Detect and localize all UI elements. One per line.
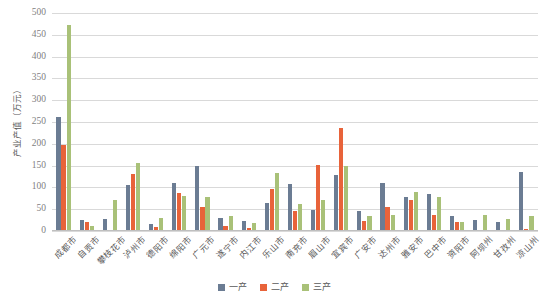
bar (67, 25, 71, 231)
bar (293, 211, 297, 231)
bar-group (307, 13, 330, 231)
x-axis-tick: 南充市 (283, 233, 306, 281)
x-axis-tick: 乐山市 (260, 233, 283, 281)
bar (334, 175, 338, 231)
bar (385, 207, 389, 231)
x-axis-tick: 凉山州 (515, 233, 538, 281)
legend-label: 三产 (313, 283, 331, 292)
legend-swatch-icon (302, 284, 309, 291)
gridline (52, 231, 538, 232)
bar (265, 203, 269, 231)
bar (288, 184, 292, 231)
x-axis-tick: 成都市 (52, 233, 75, 281)
x-axis-tick: 广元市 (191, 233, 214, 281)
bar (172, 183, 176, 231)
bar-group (515, 13, 538, 231)
bar-group (145, 13, 168, 231)
bar (56, 117, 60, 231)
y-axis-tick-label: 50 (8, 204, 46, 214)
bar (205, 197, 209, 231)
bar-group (52, 13, 75, 231)
bar (432, 215, 436, 231)
bar (357, 211, 361, 231)
x-axis-tick: 达州市 (376, 233, 399, 281)
bar (344, 166, 348, 231)
x-axis-tick: 资阳市 (445, 233, 468, 281)
bar (437, 197, 441, 231)
bar (519, 172, 523, 231)
bar (131, 174, 135, 231)
bar-group (98, 13, 121, 231)
bar-group (191, 13, 214, 231)
x-axis-line (52, 230, 538, 231)
y-axis-tick-label: 0 (8, 226, 46, 236)
bar (182, 196, 186, 231)
x-axis-category-labels: 成都市自贡市攀枝花市泸州市德阳市绵阳市广元市遂宁市内江市乐山市南充市眉山市宜宾市… (52, 233, 538, 281)
bar (339, 128, 343, 231)
bar (311, 210, 315, 231)
x-axis-tick: 绵阳市 (168, 233, 191, 281)
x-axis-tick: 广安市 (353, 233, 376, 281)
legend-swatch-icon (218, 284, 225, 291)
bar (136, 163, 140, 231)
chart-legend: 一产二产三产 (0, 283, 548, 292)
bar-chart: 产业产值（万元） 500450400350300250200150100500 … (0, 0, 548, 302)
bar (298, 204, 302, 231)
x-axis-tick: 眉山市 (307, 233, 330, 281)
bar (195, 166, 199, 231)
legend-item[interactable]: 一产 (218, 283, 247, 292)
bar-group (121, 13, 144, 231)
bar-group (422, 13, 445, 231)
x-axis-tick: 甘孜州 (492, 233, 515, 281)
bar-group (353, 13, 376, 231)
bar (113, 200, 117, 231)
x-axis-tick: 自贡市 (75, 233, 98, 281)
bar (529, 216, 533, 231)
y-axis-tick-label: 350 (8, 73, 46, 83)
x-axis-tick: 阿坝州 (469, 233, 492, 281)
y-axis-tick-label: 150 (8, 161, 46, 171)
x-axis-tick: 内江市 (237, 233, 260, 281)
bar (427, 194, 431, 231)
bar-group (492, 13, 515, 231)
bar (367, 216, 371, 231)
y-axis-tick-label: 250 (8, 117, 46, 127)
bar-group (237, 13, 260, 231)
bar (380, 183, 384, 231)
legend-item[interactable]: 二产 (260, 283, 289, 292)
x-axis-tick: 雅安市 (399, 233, 422, 281)
legend-swatch-icon (260, 284, 267, 291)
y-axis-tick-label: 450 (8, 30, 46, 40)
x-axis-tick-label: 凉山州 (516, 235, 541, 260)
y-axis-tick-label: 200 (8, 139, 46, 149)
x-axis-tick: 巴中市 (422, 233, 445, 281)
y-axis-tick-label: 100 (8, 182, 46, 192)
plot-area: 500450400350300250200150100500 (52, 13, 538, 231)
bar (126, 185, 130, 231)
bar-group (445, 13, 468, 231)
y-axis-tick-label: 500 (8, 8, 46, 18)
bar (450, 216, 454, 231)
bar (483, 215, 487, 231)
bar-group (330, 13, 353, 231)
legend-label: 一产 (229, 283, 247, 292)
bar-group (399, 13, 422, 231)
bar-group (75, 13, 98, 231)
legend-item[interactable]: 三产 (302, 283, 331, 292)
bar (409, 200, 413, 231)
bar-group (376, 13, 399, 231)
bar (404, 197, 408, 231)
bar-group (469, 13, 492, 231)
bar (321, 200, 325, 231)
bar (316, 165, 320, 231)
bar (61, 145, 65, 231)
y-axis-tick-label: 300 (8, 95, 46, 105)
bar-group (260, 13, 283, 231)
x-axis-tick: 宜宾市 (330, 233, 353, 281)
bar (391, 215, 395, 231)
bar-group (283, 13, 306, 231)
bar-group (214, 13, 237, 231)
bar (200, 207, 204, 231)
bar (270, 189, 274, 231)
bar (229, 216, 233, 231)
